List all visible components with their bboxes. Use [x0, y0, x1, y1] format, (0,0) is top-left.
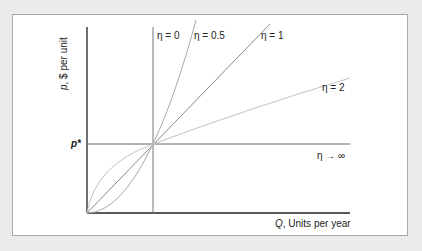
x-axis-label: Q, Units per year — [275, 218, 351, 229]
equilibrium-point — [152, 143, 155, 146]
label-eta-0: η = 0 — [157, 30, 180, 41]
label-pstar: p* — [71, 138, 81, 149]
curve-eta-1 — [87, 24, 270, 213]
label-eta-0-5: η = 0.5 — [194, 30, 225, 41]
x-axis-var: Q — [275, 218, 283, 229]
label-eta-2: η = 2 — [322, 82, 345, 93]
curve-eta-0-5 — [87, 20, 196, 213]
y-axis-label: p, $ per unit — [58, 37, 69, 90]
curve-eta-2 — [87, 78, 350, 213]
y-axis-var: p — [58, 84, 69, 90]
label-eta-inf: η → ∞ — [317, 150, 345, 161]
y-axis-unit: , $ per unit — [58, 37, 69, 84]
label-eta-1: η = 1 — [261, 30, 284, 41]
x-axis-unit: , Units per year — [283, 218, 351, 229]
